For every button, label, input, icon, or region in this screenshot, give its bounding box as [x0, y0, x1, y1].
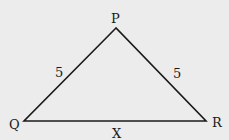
side-label-pr: 5: [173, 66, 181, 81]
side-label-pq: 5: [55, 65, 63, 80]
vertex-label-r: R: [212, 115, 223, 130]
side-label-qr: X: [112, 126, 122, 140]
vertex-label-q: Q: [9, 117, 20, 132]
triangle-svg: P Q R 5 5 X: [0, 0, 229, 140]
vertex-label-p: P: [111, 11, 120, 26]
triangle-diagram: P Q R 5 5 X: [0, 0, 229, 140]
